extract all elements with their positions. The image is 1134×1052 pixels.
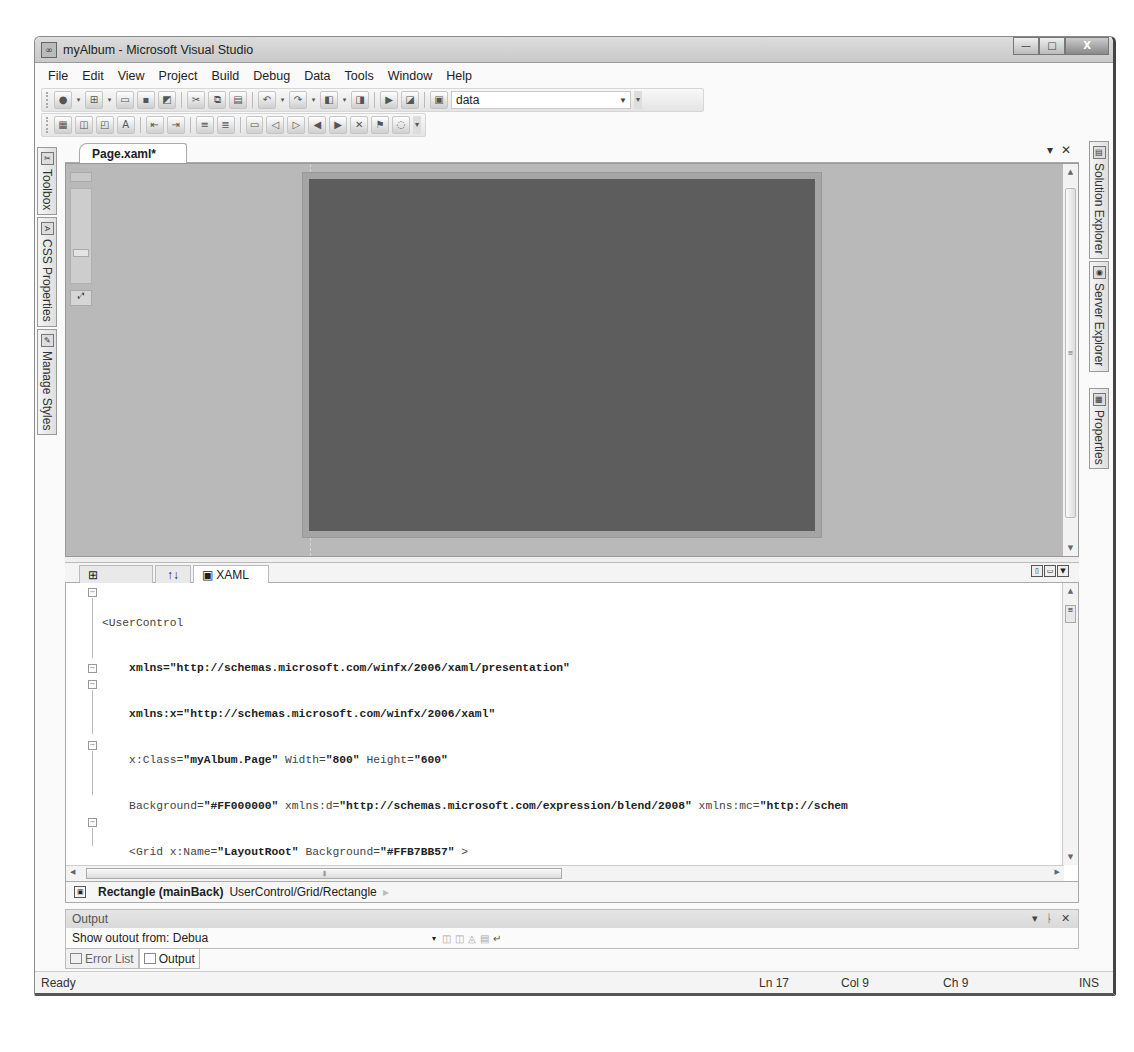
find-in-files-icon[interactable]: ▣ [430,91,448,109]
tab-xaml[interactable]: ▣ XAML [193,565,269,583]
horizontal-split-icon[interactable]: ▭ [1044,565,1056,577]
menu-edit[interactable]: Edit [75,69,111,83]
font-size-icon[interactable]: A [117,116,135,134]
save-all-icon[interactable]: ◩ [158,91,176,109]
increase-indent-icon[interactable]: ⇥ [167,116,185,134]
window-position-icon[interactable]: ▾ [1032,912,1038,925]
undo-dropdown-icon[interactable]: ▾ [279,96,286,104]
scroll-right-icon[interactable]: ▶ [1055,868,1060,876]
toolbar-overflow-icon[interactable]: ▾ [634,91,642,109]
toggle-bookmark-icon[interactable]: ⚑ [371,116,389,134]
menu-project[interactable]: Project [152,69,205,83]
zoom-slider-thumb[interactable] [73,249,89,257]
editor-vertical-scrollbar[interactable]: ▲ ≡ ▼ [1062,583,1078,865]
decrease-indent-icon[interactable]: ⇤ [146,116,164,134]
next-bookmark-folder-icon[interactable]: ▶ [329,116,347,134]
output-source-dropdown-icon[interactable]: ▾ [432,934,436,943]
selected-element[interactable]: Rectangle (mainBack) [98,885,223,899]
align-icon[interactable]: ▦ [54,116,72,134]
redo-dropdown-icon[interactable]: ▾ [310,96,317,104]
tab-preview[interactable]: ⊞ Preview [79,565,153,583]
bring-forward-icon[interactable]: ◫ [75,116,93,134]
word-wrap-icon[interactable]: ↵ [493,933,501,944]
server-explorer-tab[interactable]: ◉ Server Explorer [1089,261,1109,371]
clear-bookmarks-icon[interactable]: ✕ [350,116,368,134]
add-item-icon[interactable]: ⊞ [85,91,103,109]
navigate-back-icon[interactable]: ◧ [320,91,338,109]
artboard-usercontrol[interactable] [302,172,822,538]
breadcrumb-arrow-icon[interactable]: ▸ [383,885,389,899]
toolbox-tab[interactable]: ✂ Toolbox [37,147,57,215]
paste-icon[interactable]: ▤ [229,91,247,109]
scroll-up-icon[interactable]: ▲ [1063,164,1078,180]
open-file-icon[interactable]: ▭ [116,91,134,109]
tab-output[interactable]: Output [139,949,200,969]
new-project-dropdown-icon[interactable]: ▾ [75,96,82,104]
solution-explorer-tab[interactable]: ▤ Solution Explorer [1089,141,1109,259]
rectangle-mainback[interactable] [309,179,815,531]
navigate-forward-icon[interactable]: ◨ [351,91,369,109]
menu-view[interactable]: View [111,69,152,83]
copy-icon[interactable]: ⧉ [208,91,226,109]
zoom-slider[interactable] [70,188,92,284]
clear-all-icon[interactable]: ▤ [480,933,489,944]
chevron-down-icon[interactable]: ▼ [616,96,630,105]
designer-vertical-scrollbar[interactable]: ▲ ≡ ▼ [1062,164,1078,556]
scrollbar-thumb[interactable]: ⦀ [86,868,562,879]
scroll-left-icon[interactable]: ◀ [70,868,75,876]
prev-bookmark-folder-icon[interactable]: ◀ [308,116,326,134]
toolbar-overflow-icon[interactable]: ▾ [413,116,421,134]
add-item-dropdown-icon[interactable]: ▾ [106,96,113,104]
scroll-up-icon[interactable]: ▲ [1063,583,1078,599]
tab-page-xaml[interactable]: Page.xaml* [79,143,187,163]
css-properties-tab[interactable]: A CSS Properties [37,217,57,327]
undo-icon[interactable]: ↶ [258,91,276,109]
manage-styles-tab[interactable]: ✎ Manage Styles [37,329,57,435]
go-to-next-icon[interactable]: ◫ [455,933,464,944]
toolbar-grip[interactable] [46,117,49,133]
element-path[interactable]: UserControl/Grid/Rectangle [229,885,376,899]
find-icon[interactable]: ◪ [401,91,419,109]
xaml-code-editor[interactable]: − − − − − <UserControl xmlns="http://sch… [65,583,1079,881]
solution-configuration-combo[interactable]: data ▼ [451,91,631,109]
vertical-split-icon[interactable]: ▯ [1031,565,1043,577]
collapse-pane-icon[interactable]: ▼ [1057,565,1069,577]
code-text[interactable]: <UserControl xmlns="http://schemas.micro… [102,585,1060,865]
collapse-usercontrol-icon[interactable]: − [88,588,97,597]
minimize-button[interactable]: — [1013,37,1039,55]
scrollbar-thumb[interactable]: ≡ [1065,605,1076,623]
send-backward-icon[interactable]: ◰ [96,116,114,134]
close-button[interactable]: X [1065,37,1109,55]
close-panel-icon[interactable]: ✕ [1061,912,1070,925]
save-icon[interactable]: ▪ [137,91,155,109]
prev-bookmark-icon[interactable]: ◁ [266,116,284,134]
design-surface[interactable]: ⤢ ▲ ≡ ▼ [65,163,1079,557]
comment-icon[interactable]: ≡ [196,116,214,134]
zoom-to-fit-icon[interactable]: ⤢ [70,290,92,306]
active-files-dropdown-icon[interactable]: ▾ [1047,143,1053,157]
show-output-from-label[interactable]: Show outout from: Debua [72,931,432,945]
cut-icon[interactable]: ✂ [187,91,205,109]
collapse-rowdefinitions-icon[interactable]: − [88,741,97,750]
menu-tools[interactable]: Tools [338,69,381,83]
navigate-back-dropdown-icon[interactable]: ▾ [341,96,348,104]
collapse-rectangle-icon[interactable]: − [88,818,97,827]
auto-hide-pin-icon[interactable]: ᚿ [1046,912,1053,925]
scrollbar-thumb[interactable]: ≡ [1065,188,1076,518]
scroll-down-icon[interactable]: ▼ [1063,540,1078,556]
menu-debug[interactable]: Debug [246,69,297,83]
collapse-grid-icon[interactable]: − [88,664,97,673]
redo-icon[interactable]: ↷ [289,91,307,109]
editor-horizontal-scrollbar[interactable]: ◀ ⦀ ▶ [66,865,1064,881]
maximize-button[interactable]: □ [1039,37,1065,55]
new-project-icon[interactable]: ● [54,91,72,109]
menu-build[interactable]: Build [204,69,246,83]
collapse-columndefinitions-icon[interactable]: − [88,680,97,689]
find-message-icon[interactable]: ◫ [442,933,451,944]
uncomment-icon[interactable]: ≣ [217,116,235,134]
properties-tab[interactable]: ▦ Properties [1089,388,1109,470]
scroll-down-icon[interactable]: ▼ [1063,849,1078,865]
next-bookmark-icon[interactable]: ▷ [287,116,305,134]
tab-error-list[interactable]: Error List [65,949,139,969]
menu-file[interactable]: File [41,69,75,83]
